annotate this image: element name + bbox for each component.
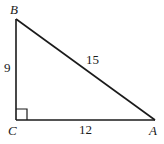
vertex-label-a: A: [148, 123, 157, 138]
right-angle-marker: [16, 109, 27, 120]
vertex-label-c: C: [8, 123, 17, 138]
side-label-bc: 9: [4, 60, 11, 75]
side-ab: [16, 19, 155, 120]
side-label-ca: 12: [79, 122, 92, 137]
side-label-ab: 15: [86, 52, 99, 67]
triangle-figure: B C A 9 12 15: [0, 0, 164, 144]
triangle-diagram: B C A 9 12 15: [0, 0, 164, 144]
vertex-label-b: B: [10, 2, 18, 17]
